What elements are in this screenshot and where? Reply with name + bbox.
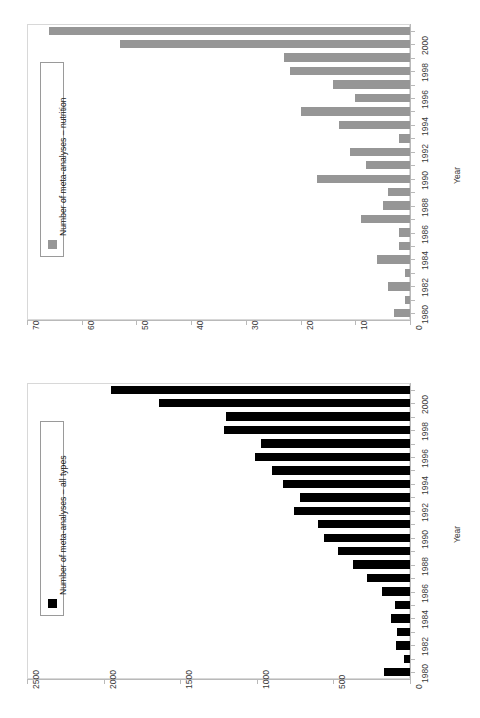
value-tick-label: 1000 — [261, 670, 271, 689]
category-tick — [411, 58, 415, 59]
category-tick-label: 1998 — [420, 422, 430, 441]
category-tick — [411, 138, 415, 139]
category-tick-label: 1984 — [420, 252, 430, 271]
value-tick-label: 0 — [414, 325, 424, 330]
value-axis-line — [27, 679, 410, 680]
value-tick — [136, 320, 137, 325]
category-tick — [411, 538, 415, 539]
bar — [290, 67, 410, 75]
category-tick — [411, 403, 415, 404]
value-tick-label: 40 — [195, 321, 205, 330]
bar — [283, 480, 410, 488]
bar — [399, 242, 410, 250]
category-tick — [411, 417, 415, 418]
value-tick — [333, 679, 334, 684]
category-tick — [411, 111, 415, 112]
bar — [404, 655, 410, 663]
bar — [377, 255, 410, 263]
value-tick-label: 2000 — [108, 670, 118, 689]
category-tick — [411, 659, 415, 660]
chart-nutrition-canvas: 0102030405060701980198219841986198819901… — [0, 0, 480, 359]
bar — [224, 426, 410, 434]
category-tick-label: 1980 — [420, 664, 430, 683]
category-tick — [411, 672, 415, 673]
bar — [395, 601, 410, 609]
legend-label: Number of meta-analyses – nutrition — [58, 97, 68, 236]
bar — [383, 201, 410, 209]
category-tick — [411, 511, 415, 512]
bar — [350, 148, 410, 156]
legend-swatch — [48, 240, 57, 249]
category-tick — [411, 246, 415, 247]
bar — [318, 520, 410, 528]
bar — [391, 614, 410, 622]
category-tick — [411, 524, 415, 525]
bar — [300, 493, 410, 501]
axis-title-year: Year — [452, 167, 462, 184]
bar — [338, 547, 410, 555]
bar — [301, 107, 410, 115]
legend-swatch — [48, 599, 57, 608]
figure-canvas: 0102030405060701980198219841986198819901… — [0, 0, 480, 718]
category-tick — [411, 618, 415, 619]
bar — [394, 309, 410, 317]
value-axis-line — [27, 320, 410, 321]
category-tick — [411, 470, 415, 471]
category-tick — [411, 233, 415, 234]
bar — [405, 296, 410, 304]
category-tick-label: 1992 — [420, 144, 430, 163]
category-tick-label: 2000 — [420, 36, 430, 55]
category-tick — [411, 192, 415, 193]
category-tick-label: 1986 — [420, 225, 430, 244]
value-tick-label: 50 — [140, 321, 150, 330]
axis-title-year: Year — [452, 526, 462, 543]
category-tick-label: 1994 — [420, 117, 430, 136]
category-tick-label: 2000 — [420, 395, 430, 414]
value-tick — [191, 320, 192, 325]
category-tick — [411, 31, 415, 32]
bar — [397, 628, 410, 636]
category-tick — [411, 551, 415, 552]
category-tick — [411, 592, 415, 593]
category-tick — [411, 645, 415, 646]
bar — [226, 412, 410, 420]
bar — [159, 399, 410, 407]
bar — [255, 453, 410, 461]
value-tick-label: 30 — [250, 321, 260, 330]
chart-legend: Number of meta-analyses – all types — [40, 421, 64, 616]
bar — [384, 668, 410, 676]
category-tick — [411, 98, 415, 99]
bar — [388, 188, 410, 196]
category-tick — [411, 71, 415, 72]
value-tick — [257, 679, 258, 684]
category-tick-label: 1992 — [420, 503, 430, 522]
category-tick-label: 1986 — [420, 584, 430, 603]
category-tick-label: 1988 — [420, 557, 430, 576]
bar — [339, 121, 410, 129]
category-axis-line — [410, 24, 411, 320]
value-tick-label: 1500 — [184, 670, 194, 689]
value-tick-label: 0 — [414, 684, 424, 689]
bar — [324, 534, 410, 542]
bar — [399, 134, 410, 142]
category-tick — [411, 219, 415, 220]
bar — [361, 215, 410, 223]
category-tick — [411, 152, 415, 153]
bar — [388, 282, 410, 290]
category-tick — [411, 605, 415, 606]
bar — [272, 466, 410, 474]
value-tick — [104, 679, 105, 684]
category-tick — [411, 85, 415, 86]
bar — [284, 53, 410, 61]
category-tick-label: 1998 — [420, 63, 430, 82]
value-tick — [27, 679, 28, 684]
category-tick-label: 1996 — [420, 449, 430, 468]
category-tick — [411, 313, 415, 314]
bar — [111, 386, 410, 394]
bar — [366, 161, 410, 169]
bar — [405, 269, 410, 277]
category-tick-label: 1990 — [420, 530, 430, 549]
value-tick — [180, 679, 181, 684]
bar — [382, 587, 410, 595]
bar — [317, 175, 410, 183]
